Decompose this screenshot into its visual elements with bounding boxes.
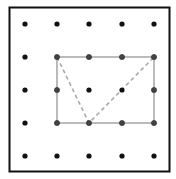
peg-dot — [151, 54, 156, 59]
peg-dot — [86, 153, 91, 158]
peg-dot — [54, 21, 59, 26]
peg-dot — [54, 54, 59, 59]
geoboard-diagram — [0, 0, 176, 179]
peg-dot — [22, 153, 27, 158]
peg-dot — [86, 54, 91, 59]
peg-dot — [151, 120, 156, 125]
rectangle-shape — [57, 57, 154, 123]
peg-dot — [22, 87, 27, 92]
peg-dot — [119, 120, 124, 125]
peg-dot — [22, 21, 27, 26]
peg-dot — [119, 21, 124, 26]
peg-dot — [54, 120, 59, 125]
peg-dot — [119, 54, 124, 59]
peg-dot — [119, 87, 124, 92]
peg-dot — [86, 87, 91, 92]
rectangle-outline — [57, 57, 154, 123]
triangle-dashed-edges — [57, 57, 154, 123]
peg-dot — [22, 54, 27, 59]
peg-dot — [119, 153, 124, 158]
peg-grid — [22, 21, 156, 158]
peg-dot — [54, 87, 59, 92]
peg-dot — [151, 153, 156, 158]
peg-dot — [86, 120, 91, 125]
peg-dot — [151, 21, 156, 26]
peg-dot — [54, 153, 59, 158]
peg-dot — [22, 120, 27, 125]
peg-dot — [151, 87, 156, 92]
dashed-triangle-shape — [57, 57, 154, 123]
peg-dot — [86, 21, 91, 26]
